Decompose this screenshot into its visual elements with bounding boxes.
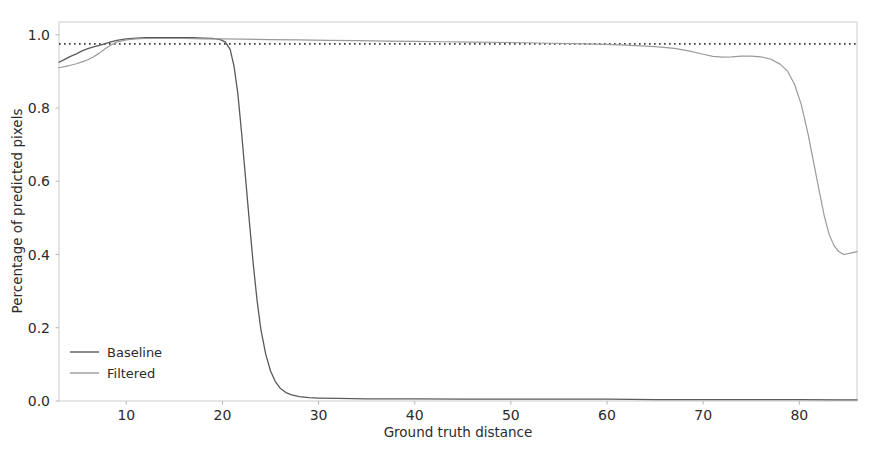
x-tick-label: 10 [117,407,135,423]
x-tick-label: 70 [694,407,712,423]
x-tick-label: 40 [406,407,424,423]
y-tick-label: 0.2 [28,320,50,336]
x-tick-label: 30 [310,407,328,423]
x-tick-label: 50 [502,407,520,423]
line-chart: 0.00.20.40.60.81.0 1020304050607080 Grou… [0,0,869,451]
legend-label-baseline[interactable]: Baseline [107,345,162,360]
y-tick-label: 0.8 [28,100,50,116]
y-axis-ticks: 0.00.20.40.60.81.0 [28,27,59,409]
x-axis-label: Ground truth distance [384,424,533,440]
y-axis-label: Percentage of predicted pixels [9,109,25,314]
x-tick-label: 80 [790,407,808,423]
x-tick-label: 20 [214,407,232,423]
x-axis-ticks: 1020304050607080 [117,401,808,423]
plot-frame [59,22,857,401]
figure-canvas: 0.00.20.40.60.81.0 1020304050607080 Grou… [0,0,869,451]
y-tick-label: 0.6 [28,173,50,189]
x-tick-label: 60 [598,407,616,423]
y-tick-label: 0.4 [28,247,50,263]
legend-label-filtered[interactable]: Filtered [107,366,155,381]
y-tick-label: 1.0 [28,27,50,43]
y-tick-label: 0.0 [28,393,50,409]
